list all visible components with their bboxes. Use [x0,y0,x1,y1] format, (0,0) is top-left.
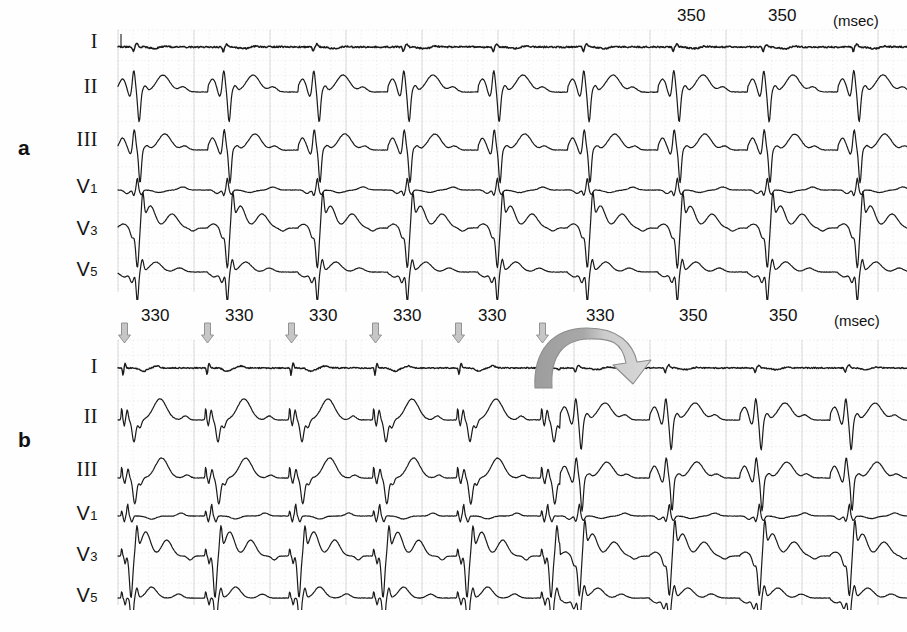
trace-a-lead-V3 [118,192,907,268]
trace-b-lead-II [118,399,907,450]
ecg-traces-panel-b [0,300,907,610]
ecg-traces-panel-a [0,0,907,300]
trace-b-lead-V5 [118,586,907,610]
trace-b-lead-V3 [118,520,907,597]
trace-a-lead-II [118,70,907,121]
trace-a-lead-V1 [118,178,907,196]
trace-b-lead-V1 [118,504,907,522]
ecg-figure: a 350 350 (msec) I II III V1 V3 V5 b 330… [0,0,907,632]
trace-a-lead-V5 [118,259,907,300]
trace-b-lead-III [118,458,907,511]
trace-a-lead-I [118,43,907,52]
ecg-panel-b: b 330 330 330 330 330 330 350 350 (msec)… [0,300,907,610]
ecg-paper-grid [118,30,907,292]
trace-a-lead-III [118,130,907,183]
trace-b-lead-I [118,363,907,376]
ecg-panel-a: a 350 350 (msec) I II III V1 V3 V5 [0,0,907,300]
rhythm-transition-arrow [527,322,702,390]
